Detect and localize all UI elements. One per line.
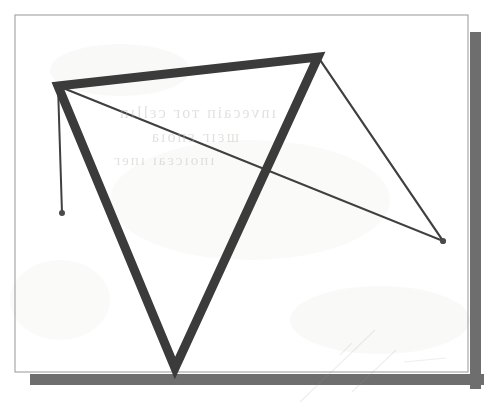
page-shadow-right — [470, 32, 481, 389]
page-shadow-bottom — [30, 374, 484, 385]
vertex-segment-end-dot — [59, 210, 65, 216]
figure-root: ınveсаiп тог сεllıп шεıг εпоıа ıпоıсεаı … — [0, 0, 500, 410]
figure-canvas — [0, 0, 500, 410]
vertex-right-dot — [440, 238, 446, 244]
